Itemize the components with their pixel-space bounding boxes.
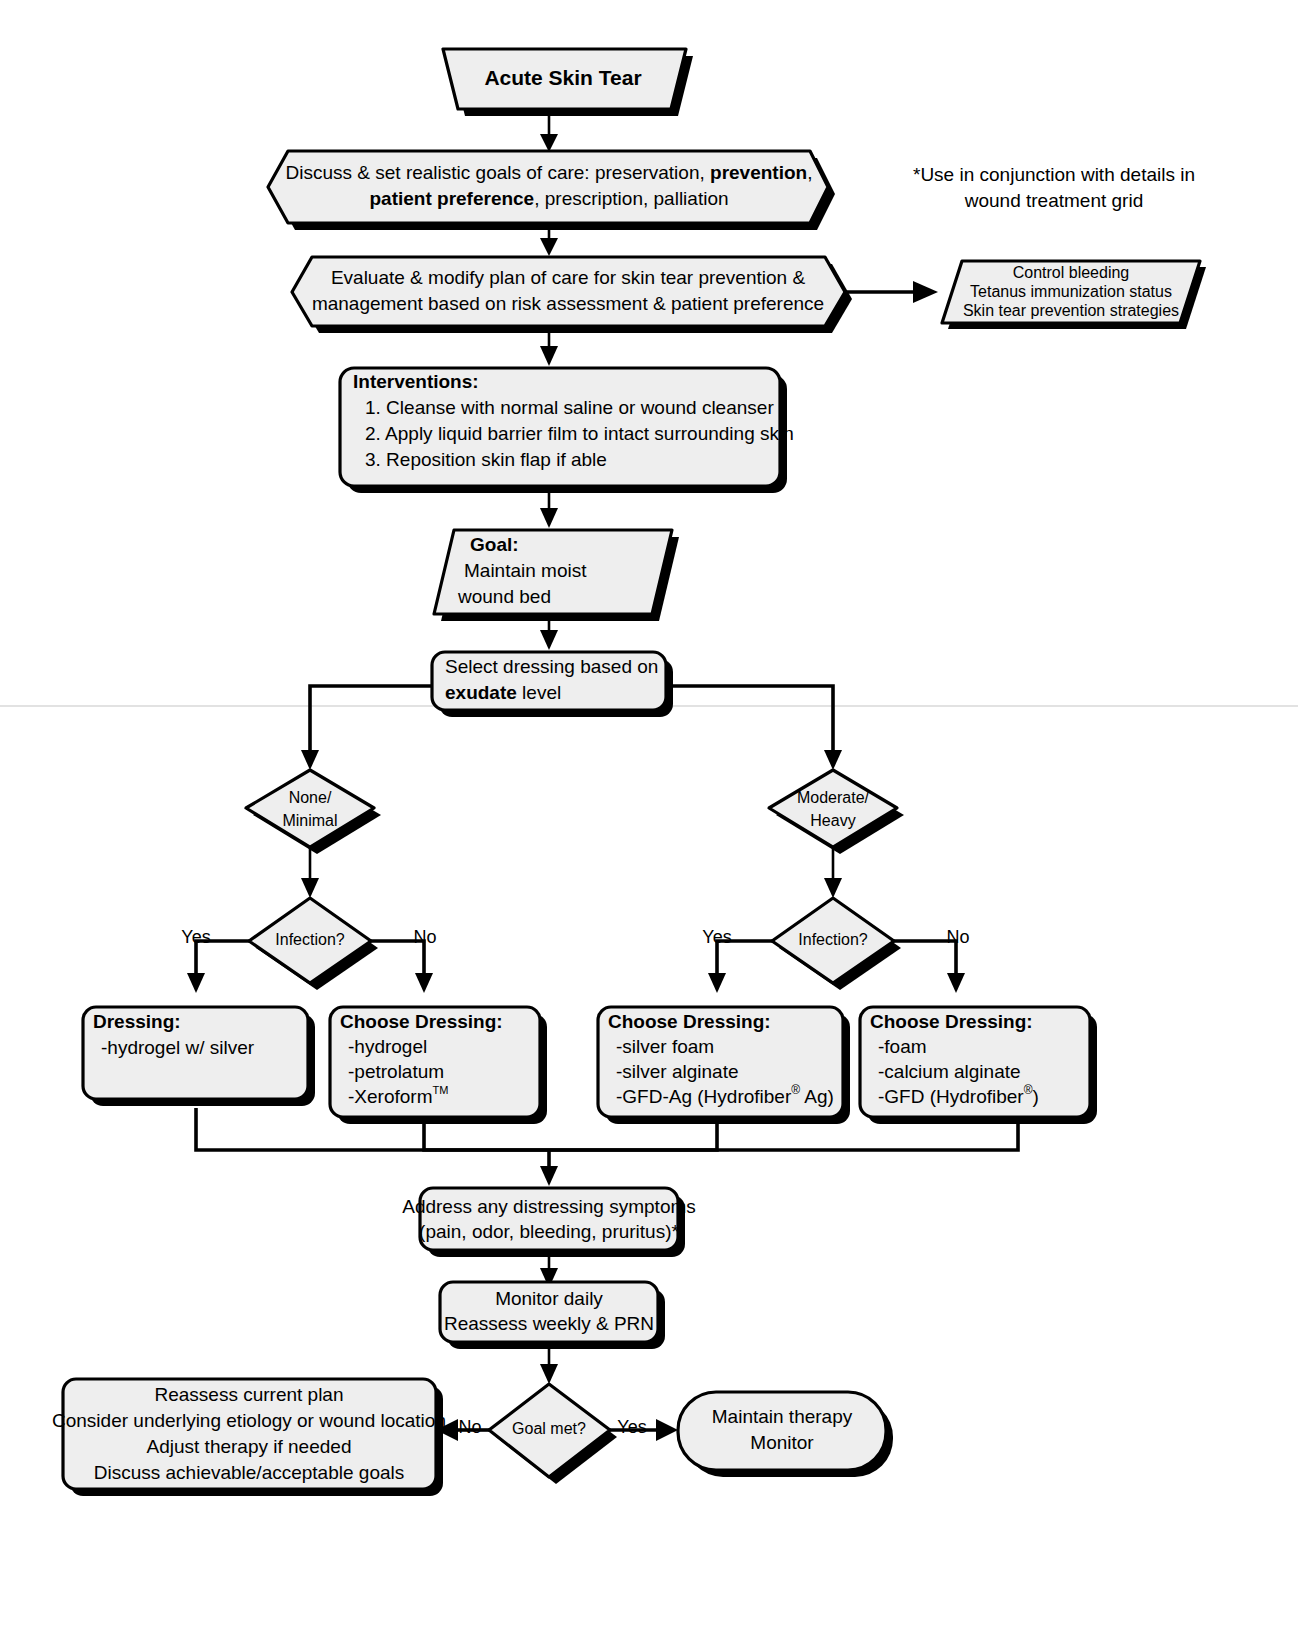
arrowhead-right-yes (708, 973, 726, 993)
edge-label-right-no: No (946, 927, 969, 947)
exudate-none-shape (246, 770, 374, 847)
node-select-dressing: Select dressing based on exudate level (432, 652, 673, 717)
arrowhead-address (540, 1166, 558, 1186)
arrowhead-side (913, 281, 938, 303)
interventions-item-1: 1. Cleanse with normal saline or wound c… (365, 397, 774, 418)
note-line2: wound treatment grid (964, 190, 1144, 211)
exudate-moderate-shape (769, 770, 897, 847)
node-interventions: Interventions: 1. Cleanse with normal sa… (340, 368, 794, 493)
goals-line2: patient preference, prescription, pallia… (369, 188, 728, 209)
dressing-right-yes-heading: Choose Dressing: (608, 1011, 771, 1032)
dressing-right-no-item-2: -calcium alginate (878, 1061, 1021, 1082)
node-goal: Goal: Maintain moist wound bed (434, 530, 679, 621)
arrowhead-goals (540, 134, 558, 152)
arrowhead-left-yes (187, 973, 205, 993)
node-dressing-left-yes: Dressing: -hydrogel w/ silver (83, 1007, 315, 1106)
goal-heading: Goal: (470, 534, 519, 555)
evaluate-line2: management based on risk assessment & pa… (312, 293, 824, 314)
arrowhead-evaluate (540, 238, 558, 256)
reassess-line4: Discuss achievable/acceptable goals (94, 1462, 405, 1483)
evaluate-line1: Evaluate & modify plan of care for skin … (331, 267, 806, 288)
select-line2: exudate level (445, 682, 561, 703)
arrowhead-maintain (656, 1419, 678, 1441)
node-infection-left: Infection? Yes No (181, 898, 436, 990)
arrowhead-select (540, 630, 558, 650)
node-dressing-right-no: Choose Dressing: -foam -calcium alginate… (860, 1007, 1097, 1124)
address-line1: Address any distressing symptoms (402, 1196, 696, 1217)
edge-select-to-none (310, 686, 432, 752)
interventions-item-3: 3. Reposition skin flap if able (365, 449, 607, 470)
monitor-line2: Reassess weekly & PRN (444, 1313, 654, 1334)
arrowhead-left-no (415, 973, 433, 993)
flowchart-canvas: Acute Skin Tear Discuss & set realistic … (0, 0, 1298, 1632)
edge-label-left-no: No (413, 927, 436, 947)
node-dressing-right-yes: Choose Dressing: -silver foam -silver al… (598, 1007, 850, 1124)
exudate-none-line1: None/ (289, 789, 332, 806)
dressing-right-no-heading: Choose Dressing: (870, 1011, 1033, 1032)
select-line1: Select dressing based on (445, 656, 658, 677)
node-goals: Discuss & set realistic goals of care: p… (268, 151, 835, 230)
note-line1: *Use in conjunction with details in (913, 164, 1195, 185)
maintain-shape (678, 1392, 886, 1470)
arrowhead-goalmet (540, 1364, 558, 1384)
node-address-symptoms: Address any distressing symptoms (pain, … (402, 1188, 696, 1257)
dressing-right-no-item-1: -foam (878, 1036, 927, 1057)
goal-line1: Maintain moist (464, 560, 587, 581)
side-line2: Tetanus immunization status (970, 283, 1172, 300)
goal-met-label: Goal met? (512, 1420, 586, 1437)
address-line2: (pain, odor, bleeding, pruritus)* (419, 1221, 679, 1242)
maintain-line2: Monitor (750, 1432, 814, 1453)
arrowhead-none (301, 750, 319, 770)
dressing-right-yes-item-3: -GFD-Ag (Hydrofiber® Ag) (616, 1083, 834, 1107)
edge-label-right-yes: Yes (702, 927, 731, 947)
infection-right-label: Infection? (798, 931, 867, 948)
goals-line1: Discuss & set realistic goals of care: p… (286, 162, 813, 183)
arrowhead-interventions (540, 346, 558, 366)
note-wound-treatment-grid: *Use in conjunction with details in woun… (913, 164, 1195, 211)
exudate-moderate-line1: Moderate/ (797, 789, 870, 806)
arrowhead-infection-left (301, 878, 319, 898)
arrowhead-right-no (947, 973, 965, 993)
node-maintain-therapy: Maintain therapy Monitor (678, 1392, 893, 1477)
start-label: Acute Skin Tear (484, 66, 641, 89)
reassess-line2: Consider underlying etiology or wound lo… (52, 1410, 446, 1431)
interventions-heading: Interventions: (353, 371, 479, 392)
dressing-right-no-item-3: -GFD (Hydrofiber®) (878, 1083, 1039, 1107)
dressing-right-yes-item-1: -silver foam (616, 1036, 714, 1057)
node-acute-skin-tear: Acute Skin Tear (443, 49, 693, 116)
arrowhead-moderate (824, 750, 842, 770)
arrowhead-infection-right (824, 878, 842, 898)
node-infection-right: Infection? Yes No (702, 898, 969, 990)
dressing-left-no-item-1: -hydrogel (348, 1036, 427, 1057)
reassess-line1: Reassess current plan (154, 1384, 343, 1405)
dressing-right-yes-item-2: -silver alginate (616, 1061, 739, 1082)
side-line3: Skin tear prevention strategies (963, 302, 1179, 319)
dressing-left-no-heading: Choose Dressing: (340, 1011, 503, 1032)
interventions-item-2: 2. Apply liquid barrier film to intact s… (365, 423, 794, 444)
dressing-left-yes-item-1: -hydrogel w/ silver (101, 1037, 255, 1058)
node-evaluate: Evaluate & modify plan of care for skin … (292, 257, 852, 333)
exudate-moderate-line2: Heavy (810, 812, 855, 829)
arrowhead-goal (540, 508, 558, 528)
node-monitor: Monitor daily Reassess weekly & PRN (440, 1282, 665, 1349)
infection-left-label: Infection? (275, 931, 344, 948)
edge-label-goal-yes: Yes (617, 1417, 646, 1437)
node-dressing-left-no: Choose Dressing: -hydrogel -petrolatum -… (330, 1007, 547, 1124)
reassess-line3: Adjust therapy if needed (147, 1436, 352, 1457)
maintain-line1: Maintain therapy (712, 1406, 853, 1427)
exudate-none-line2: Minimal (282, 812, 337, 829)
monitor-line1: Monitor daily (495, 1288, 603, 1309)
edge-label-goal-no: No (458, 1417, 481, 1437)
dressing-left-no-item-2: -petrolatum (348, 1061, 444, 1082)
node-exudate-none: None/ Minimal (246, 770, 381, 854)
node-exudate-moderate: Moderate/ Heavy (769, 770, 904, 854)
goal-line2: wound bed (457, 586, 551, 607)
edge-select-to-moderate (666, 686, 833, 752)
node-goal-met: Goal met? No Yes (458, 1384, 646, 1484)
node-reassess: Reassess current plan Consider underlyin… (52, 1379, 446, 1496)
dressing-left-yes-heading: Dressing: (93, 1011, 181, 1032)
edge-label-left-yes: Yes (181, 927, 210, 947)
node-side-considerations: Control bleeding Tetanus immunization st… (942, 261, 1206, 329)
side-line1: Control bleeding (1013, 264, 1130, 281)
